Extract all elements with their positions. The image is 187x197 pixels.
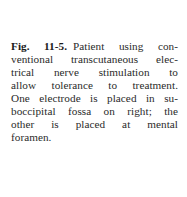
caption-line-3: trical nerve stimulation to [11,66,178,79]
caption-line-5: One electrode is placed in su- [11,92,178,105]
caption-line-4: allow tolerance to treatment. [11,79,178,92]
caption-line-7: other is placed at mental [11,118,178,131]
caption-line-6: boccipital fossa on right; the [11,105,178,118]
figure-label: Fig. 11-5. [11,40,67,52]
figure-caption: Fig. 11-5.Patient using con- ventional t… [11,40,178,144]
caption-text-1: Patient using con- [73,40,178,52]
caption-line-8: foramen. [11,131,178,144]
caption-line-2: ventional transcutaneous elec- [11,53,178,66]
caption-line-1: Fig. 11-5.Patient using con- [11,40,178,53]
